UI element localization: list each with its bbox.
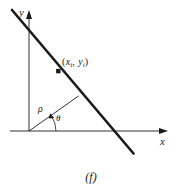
figure-container: y x (xi, yi) ρ θ (f): [0, 0, 182, 196]
figure-caption: (f): [0, 170, 182, 185]
y-axis-arrowhead: [26, 10, 32, 19]
x-axis-label: x: [160, 136, 165, 147]
parameterized-line: [12, 10, 134, 154]
point-coordinate-label: (xi, yi): [62, 57, 89, 69]
y-axis-label: y: [19, 7, 24, 18]
point-label-close-paren: ): [85, 56, 89, 67]
rho-symbol-label: ρ: [38, 104, 43, 114]
theta-symbol-label: θ: [56, 114, 60, 123]
axes-group: [10, 10, 168, 134]
x-axis-arrowhead: [159, 128, 168, 134]
rho-segment-group: [29, 96, 79, 131]
point-marker: [56, 69, 60, 73]
rho-segment: [29, 96, 79, 131]
figure-canvas: [0, 0, 182, 196]
main-line-group: [12, 10, 134, 154]
